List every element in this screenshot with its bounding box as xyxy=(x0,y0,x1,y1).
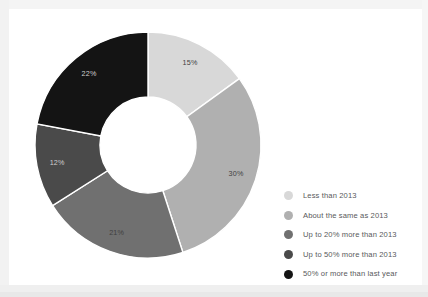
donut-slice-group xyxy=(35,32,261,258)
page-edge-right xyxy=(422,0,428,297)
donut-slice-value-label: 30% xyxy=(228,169,243,178)
legend-item-label: Less than 2013 xyxy=(303,192,357,200)
legend-item[interactable]: About the same as 2013 xyxy=(284,206,422,226)
page-edge-bottom-band xyxy=(0,292,428,297)
legend-item-label: Up to 20% more than 2013 xyxy=(303,231,397,239)
donut-slice-value-label: 21% xyxy=(109,228,124,237)
donut-slice-value-label: 12% xyxy=(50,158,65,167)
legend-color-swatch-icon xyxy=(284,191,293,200)
legend-item-label: Up to 50% more than 2013 xyxy=(303,251,397,259)
legend-item[interactable]: Less than 2013 xyxy=(284,186,422,206)
donut-chart: 15%30%21%12%22% xyxy=(26,18,276,274)
legend-item-label: 50% or more than last year xyxy=(303,270,397,278)
donut-slice-value-label: 15% xyxy=(182,58,197,67)
page-edge-top xyxy=(0,0,428,9)
page-edge-left xyxy=(0,0,9,297)
legend-color-swatch-icon xyxy=(284,230,293,239)
legend-color-swatch-icon xyxy=(284,211,293,220)
chart-legend: Less than 2013About the same as 2013Up t… xyxy=(284,186,422,284)
legend-item[interactable]: Up to 50% more than 2013 xyxy=(284,245,422,265)
donut-chart-svg: 15%30%21%12%22% xyxy=(26,18,276,274)
donut-slice-value-label: 22% xyxy=(82,69,97,78)
legend-color-swatch-icon xyxy=(284,250,293,259)
legend-item[interactable]: 50% or more than last year xyxy=(284,264,422,284)
legend-color-swatch-icon xyxy=(284,270,293,279)
legend-item[interactable]: Up to 20% more than 2013 xyxy=(284,225,422,245)
legend-item-label: About the same as 2013 xyxy=(303,212,388,220)
page-canvas: 15%30%21%12%22% Less than 2013About the … xyxy=(0,0,428,297)
donut-slice[interactable] xyxy=(37,32,148,136)
